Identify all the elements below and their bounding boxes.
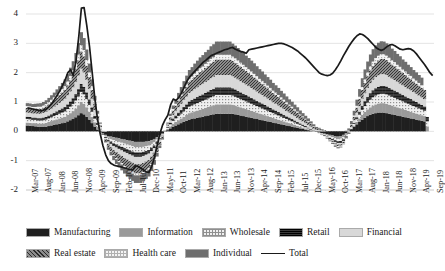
- bar-segment: [426, 126, 429, 131]
- y-axis-tick-label: 2: [0, 67, 18, 77]
- bar-segment: [423, 106, 426, 110]
- bar-segment: [342, 139, 345, 141]
- y-axis-tick-label: 0: [0, 125, 18, 135]
- legend-label: Individual: [213, 249, 252, 259]
- legend-item[interactable]: Real estate: [26, 249, 95, 259]
- legend-item[interactable]: Information: [119, 228, 192, 238]
- legend-swatch: [104, 249, 128, 258]
- bar-segment: [88, 72, 91, 77]
- x-axis-tick-label: Apr-09: [98, 170, 107, 193]
- x-axis-tick-label: Mar-12: [193, 169, 202, 193]
- y-axis-tick-label: 3: [0, 37, 18, 47]
- legend-swatch: [279, 228, 303, 237]
- bar-segment: [345, 136, 348, 137]
- x-axis-tick-label: Aug-07: [44, 168, 53, 193]
- legend-swatch-line: [261, 253, 285, 254]
- bar-segment: [101, 130, 104, 131]
- bar-segment: [423, 99, 426, 106]
- chart-legend: ManufacturingInformationWholesaleRetailF…: [0, 222, 437, 271]
- x-axis-tick-label: Mar-17: [355, 169, 364, 193]
- x-axis-tick-label: Sep-19: [436, 170, 445, 193]
- x-axis-tick-label: Feb-10: [125, 170, 134, 193]
- x-axis-tick-label: Sep-14: [274, 170, 283, 193]
- bar-segment: [304, 116, 307, 119]
- bar-segment: [161, 138, 164, 139]
- x-axis-tick-label: Jan-08: [58, 171, 67, 193]
- bar-segment: [426, 121, 429, 126]
- legend-item[interactable]: Total: [261, 249, 308, 259]
- bar-segment: [323, 131, 326, 132]
- legend-item[interactable]: Financial: [339, 228, 402, 238]
- legend-item[interactable]: Retail: [279, 228, 330, 238]
- bar-segment: [345, 138, 348, 139]
- legend-row-1: ManufacturingInformationWholesaleRetailF…: [0, 222, 437, 243]
- legend-row-2: Real estateHealth careIndividualTotal: [0, 243, 437, 264]
- x-axis-tick-label: Oct-11: [179, 171, 188, 193]
- x-axis-tick-label: Aug-12: [206, 168, 215, 193]
- x-axis-tick-label: Jun-13: [233, 171, 242, 193]
- x-axis-tick-label: Oct-16: [341, 170, 350, 193]
- y-axis-tick-label: -2: [0, 184, 18, 194]
- x-axis-tick-label: Nov-18: [409, 168, 418, 193]
- legend-label: Wholesale: [230, 228, 270, 238]
- x-axis-tick-label: May-16: [328, 167, 337, 193]
- legend-item[interactable]: Individual: [185, 249, 252, 259]
- x-axis-tick-label: Nov-08: [85, 168, 94, 193]
- bar-segment: [347, 133, 350, 134]
- legend-item[interactable]: Wholesale: [202, 228, 270, 238]
- legend-swatch: [119, 228, 143, 237]
- x-axis-tick-label: Sep-09: [112, 170, 121, 193]
- x-axis-tick-label: Apr-19: [422, 170, 431, 193]
- legend-swatch: [202, 228, 226, 237]
- bar-segment: [420, 78, 423, 86]
- bar-segment: [85, 49, 88, 60]
- bar-segment: [339, 144, 342, 145]
- legend-item[interactable]: Manufacturing: [26, 228, 110, 238]
- bar-segment: [318, 128, 321, 129]
- x-axis-tick-label: May-11: [166, 167, 175, 193]
- legend-label: Manufacturing: [54, 228, 110, 238]
- legend-swatch: [26, 249, 50, 258]
- bar-segment: [309, 123, 312, 124]
- bar-segment: [312, 124, 315, 126]
- legend-label: Total: [289, 249, 308, 259]
- legend-swatch: [26, 228, 50, 237]
- legend-label: Real estate: [54, 249, 95, 259]
- bar-segment: [342, 142, 345, 143]
- bar-segment: [339, 147, 342, 148]
- bar-segment: [342, 144, 345, 145]
- legend-item[interactable]: Health care: [104, 249, 176, 259]
- x-axis-tick-label: Jan-13: [220, 171, 229, 193]
- bar-segment: [423, 90, 426, 99]
- y-axis-tick-label: -1: [0, 155, 18, 165]
- bar-segment: [320, 129, 323, 130]
- legend-swatch: [339, 228, 363, 237]
- bar-segment: [307, 118, 310, 121]
- x-axis-tick-label: Apr-14: [260, 170, 269, 193]
- bar-segment: [347, 132, 350, 133]
- x-axis-tick-label: Nov-13: [247, 168, 256, 193]
- x-axis-tick-label: Dec-15: [314, 169, 323, 193]
- x-axis-tick-label: Feb-15: [287, 170, 296, 193]
- x-axis-tick-label: Jul-10: [139, 173, 148, 193]
- bar-segment: [312, 126, 315, 127]
- bar-segment: [161, 137, 164, 138]
- x-axis-tick-label: Dec-10: [152, 169, 161, 193]
- legend-label: Information: [147, 228, 192, 238]
- bar-segment: [342, 141, 345, 142]
- legend-label: Health care: [132, 249, 176, 259]
- x-axis-tick-label: Jan-18: [382, 171, 391, 193]
- bar-segment: [158, 145, 161, 148]
- bar-segment: [423, 111, 426, 116]
- bar-segment: [309, 121, 312, 123]
- bar-segment: [347, 131, 350, 132]
- x-axis-tick-label: Mar-07: [31, 169, 40, 193]
- legend-label: Financial: [367, 228, 402, 238]
- plot-area: 43210-1-2Mar-07Aug-07Jan-08Jun-08Nov-08A…: [0, 0, 437, 200]
- y-axis-tick-label: 4: [0, 8, 18, 18]
- bar-segment: [420, 85, 423, 88]
- x-axis-tick-label: Jul-15: [301, 173, 310, 193]
- bar-segment: [161, 135, 164, 136]
- x-axis-tick-label: Aug-17: [368, 168, 377, 193]
